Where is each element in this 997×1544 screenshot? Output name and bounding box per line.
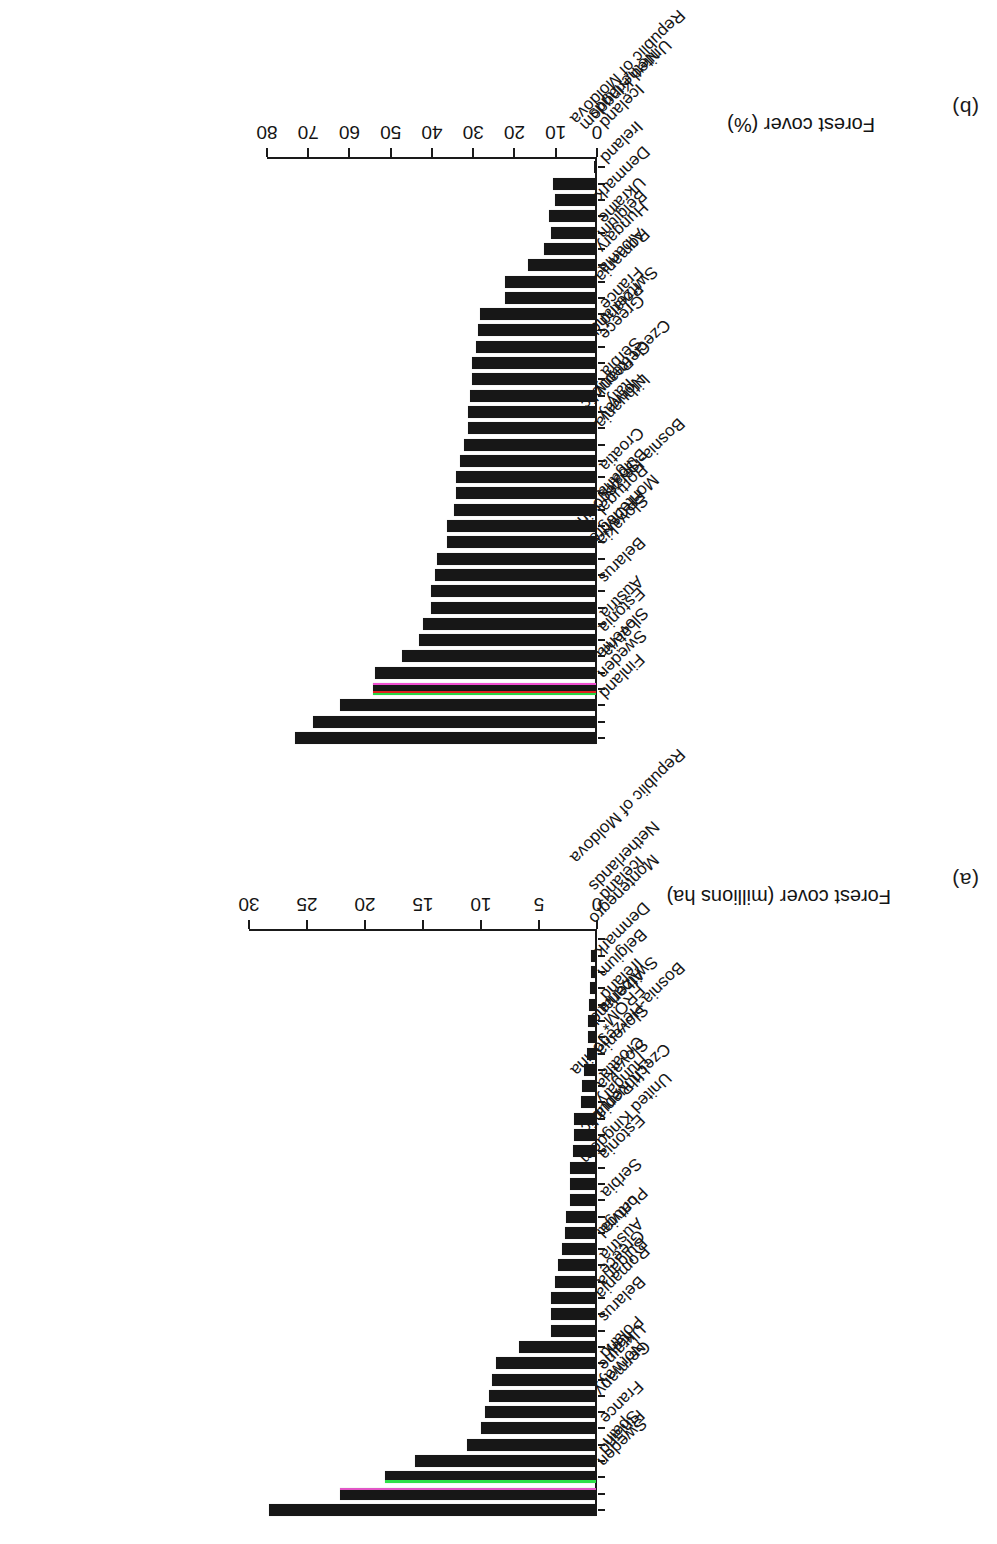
bar <box>581 1097 596 1109</box>
category-axis-tick <box>598 1476 605 1478</box>
panel-a: (a) Forest cover (millions ha) 051015202… <box>0 772 997 1544</box>
category-axis-tick <box>598 1362 605 1364</box>
value-axis-tick-label: 25 <box>281 893 333 915</box>
bar <box>472 357 596 369</box>
bar <box>435 569 596 581</box>
category-axis-tick <box>598 199 605 201</box>
value-axis-tick <box>364 920 366 929</box>
category-axis-tick <box>598 1313 605 1315</box>
value-axis-tick-label: 20 <box>339 893 391 915</box>
category-axis-tick <box>598 737 605 739</box>
bar <box>551 227 596 239</box>
category-axis-tick <box>598 1297 605 1299</box>
bar <box>415 1455 596 1467</box>
category-axis-tick <box>598 971 605 973</box>
category-axis-tick <box>598 623 605 625</box>
bar <box>505 276 596 288</box>
bar <box>591 950 596 962</box>
bar <box>582 1080 596 1092</box>
category-axis-tick <box>598 672 605 674</box>
category-axis-tick <box>598 1493 605 1495</box>
bar <box>566 1211 596 1223</box>
category-axis-tick <box>598 248 605 250</box>
category-axis-tick <box>598 1379 605 1381</box>
bar <box>528 259 596 271</box>
bar <box>448 536 597 548</box>
bar <box>269 1504 596 1516</box>
category-axis-tick <box>598 313 605 315</box>
value-axis-tick-label: 30 <box>223 893 275 915</box>
value-axis-tick <box>422 920 424 929</box>
bar <box>555 194 596 206</box>
bar <box>590 982 596 994</box>
scanned-figure: (a) Forest cover (millions ha) 051015202… <box>0 0 997 1544</box>
bar <box>464 439 596 451</box>
category-axis-tick <box>598 1134 605 1136</box>
bar <box>594 162 596 174</box>
value-axis-line <box>249 929 597 931</box>
category-axis-tick <box>598 1248 605 1250</box>
bar <box>562 1243 596 1255</box>
value-axis-tick-label: 10 <box>455 893 507 915</box>
bar <box>549 210 596 222</box>
bar <box>595 934 596 946</box>
bar <box>570 1194 596 1206</box>
category-axis-tick <box>598 1150 605 1152</box>
category-axis-tick <box>598 541 605 543</box>
category-axis-tick <box>598 476 605 478</box>
bar <box>478 325 596 337</box>
panel-a-axis-title: Forest cover (millions ha) <box>666 885 891 908</box>
category-axis-tick <box>598 493 605 495</box>
category-axis-tick <box>598 688 605 690</box>
bar <box>489 1390 596 1402</box>
value-axis-tick <box>248 920 250 929</box>
panel-a-letter: (a) <box>952 868 979 892</box>
bar <box>472 373 596 385</box>
bar <box>467 1439 596 1451</box>
panel-b: (b) Forest cover (%) 01020304050607080Fi… <box>0 0 997 772</box>
value-axis-tick <box>390 148 392 157</box>
bar <box>470 390 596 402</box>
bar <box>570 1178 596 1190</box>
category-axis-tick <box>598 395 605 397</box>
category-axis-tick <box>598 1330 605 1332</box>
bar <box>555 1276 596 1288</box>
category-axis-tick <box>598 1069 605 1071</box>
category-axis-tick <box>598 362 605 364</box>
category-axis-tick <box>598 607 605 609</box>
category-axis-tick <box>598 1118 605 1120</box>
bar <box>544 243 596 255</box>
value-axis-tick <box>307 148 309 157</box>
category-axis-tick <box>598 427 605 429</box>
value-axis-tick <box>480 920 482 929</box>
category-axis-tick <box>598 574 605 576</box>
bar <box>419 634 596 646</box>
category-axis-tick <box>598 411 605 413</box>
bar <box>385 1471 596 1483</box>
bar <box>492 1374 596 1386</box>
bar <box>340 1488 596 1500</box>
category-axis-tick <box>598 939 605 941</box>
value-axis-line <box>267 157 597 159</box>
value-axis-tick <box>514 148 516 157</box>
category-axis-tick <box>598 721 605 723</box>
category-axis-tick <box>598 281 605 283</box>
category-axis-tick <box>598 330 605 332</box>
bar <box>551 1325 596 1337</box>
category-axis-tick <box>598 1395 605 1397</box>
bar <box>295 732 596 744</box>
category-axis-tick <box>598 1509 605 1511</box>
category-axis-tick <box>598 1232 605 1234</box>
category-axis-tick <box>598 639 605 641</box>
value-axis-tick <box>266 148 268 157</box>
category-axis-tick <box>598 1444 605 1446</box>
category-axis-tick <box>598 704 605 706</box>
category-axis-tick <box>598 1085 605 1087</box>
value-axis-tick <box>349 148 351 157</box>
bar <box>551 1292 596 1304</box>
category-axis-tick <box>598 590 605 592</box>
panel-b-letter: (b) <box>952 96 979 120</box>
category-axis-tick <box>598 1428 605 1430</box>
category-axis-tick <box>598 1167 605 1169</box>
bar <box>456 488 596 500</box>
